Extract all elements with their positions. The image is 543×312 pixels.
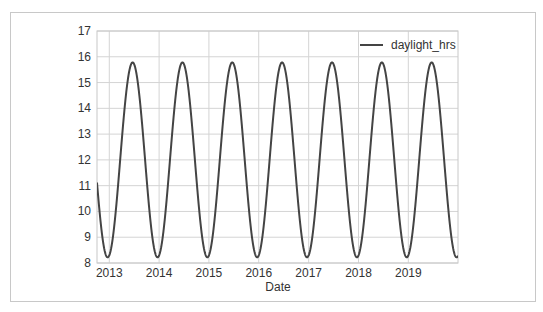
y-tick-label: 11 (79, 179, 92, 193)
x-tick-label: 2016 (245, 266, 272, 280)
y-tick-label: 17 (78, 24, 92, 38)
chart: 891011121314151617 201320142015201620172… (0, 0, 543, 312)
y-tick-label: 13 (78, 127, 92, 141)
x-tick-label: 2015 (196, 266, 223, 280)
x-tick-label: 2019 (395, 266, 422, 280)
y-tick-label: 8 (84, 256, 91, 270)
x-axis: 2013201420152016201720182019 (96, 266, 422, 280)
y-tick-label: 14 (78, 101, 92, 115)
x-tick-label: 2013 (96, 266, 123, 280)
x-tick-label: 2018 (345, 266, 372, 280)
x-axis-label: Date (265, 280, 291, 294)
y-tick-label: 12 (78, 153, 92, 167)
x-tick-label: 2014 (146, 266, 173, 280)
y-tick-label: 9 (84, 230, 91, 244)
y-tick-label: 15 (78, 76, 92, 90)
x-tick-label: 2017 (295, 266, 322, 280)
y-tick-label: 10 (78, 204, 92, 218)
y-tick-label: 16 (78, 50, 92, 64)
y-axis: 891011121314151617 (78, 24, 92, 270)
legend: daylight_hrs (360, 38, 456, 52)
legend-label: daylight_hrs (391, 38, 456, 52)
